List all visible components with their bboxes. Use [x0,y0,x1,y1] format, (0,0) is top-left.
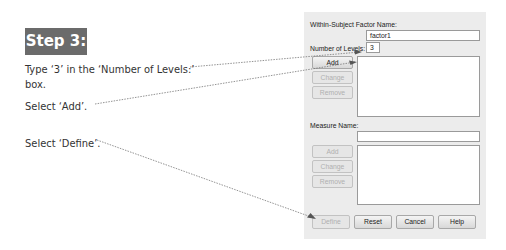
define-button[interactable]: Define [312,215,350,229]
measure-name-label: Measure Name: [310,122,358,129]
measure-add-button[interactable]: Add [312,145,353,158]
repeated-measures-define-factor-dialog: Within-Subject Factor Name: factor1 Numb… [304,12,486,239]
instruction-type-levels: Type ‘3’ in the ‘Number of Levels:’ box. [25,62,215,92]
measure-remove-button[interactable]: Remove [312,175,353,188]
arrow-to-define-button [97,140,314,218]
instruction-select-define: Select ‘Define’. [25,136,100,151]
instruction-select-add: Select ‘Add’. [25,99,87,114]
levels-input[interactable]: 3 [366,42,380,53]
reset-button[interactable]: Reset [354,215,392,229]
levels-label: Number of Levels: [310,45,365,52]
step-label: Step 3: [25,28,87,55]
factor-add-button[interactable]: Add [312,56,353,69]
measure-name-input[interactable] [357,131,480,142]
factor-change-button[interactable]: Change [312,71,353,84]
measure-change-button[interactable]: Change [312,160,353,173]
factor-remove-button[interactable]: Remove [312,86,353,99]
factor-name-label: Within-Subject Factor Name: [310,21,397,28]
help-button[interactable]: Help [438,215,476,229]
factor-name-input[interactable]: factor1 [366,30,480,41]
factor-list[interactable] [357,56,480,117]
measure-list[interactable] [357,145,480,205]
cancel-button[interactable]: Cancel [396,215,434,229]
